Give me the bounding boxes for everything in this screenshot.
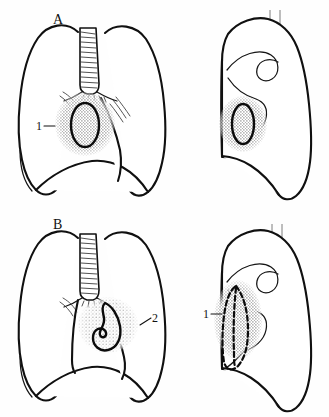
panel-a-lateral-anterior-wall: [221, 60, 222, 155]
chest-diagram-svg: 1 A: [0, 0, 329, 417]
panel-a-callout-1-label: 1: [36, 119, 42, 133]
panel-b-letter: B: [53, 217, 62, 232]
panel-a-lateral-lesion-mass: [219, 96, 267, 152]
panel-b-frontal-view: 2 B: [19, 217, 166, 402]
panel-b-lateral-callout-1-label: 1: [203, 307, 209, 321]
panel-a-frontal-view: 1 A: [19, 12, 166, 196]
panel-b-lesion-mass: [78, 297, 138, 353]
panel-b-callout-2-label: 2: [152, 311, 158, 325]
panel-a-lesion-mass: [55, 92, 115, 156]
figure-root: 1 A: [0, 0, 329, 417]
panel-a-letter: A: [53, 12, 64, 27]
